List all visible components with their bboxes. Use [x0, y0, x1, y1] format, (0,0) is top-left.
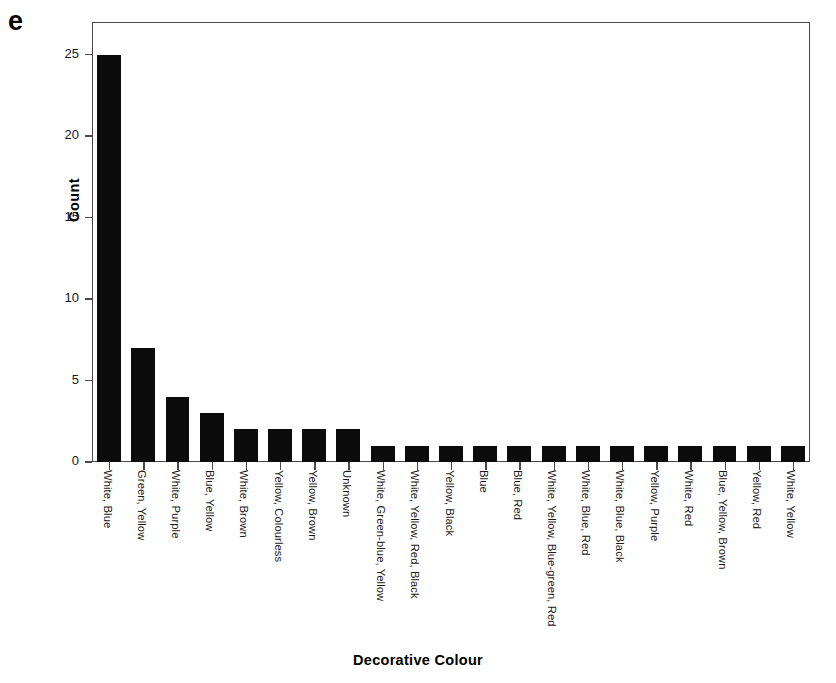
x-tick-mark [519, 462, 520, 470]
x-tick-mark [622, 462, 623, 470]
bar [678, 446, 702, 462]
x-tick-mark [314, 462, 315, 470]
x-tick-mark [348, 462, 349, 470]
x-tick-label: Blue, Yellow, Brown [717, 470, 729, 570]
x-tick-mark [656, 462, 657, 470]
x-tick-label: Unknown [341, 470, 353, 517]
y-tick-mark [85, 135, 92, 136]
bar [781, 446, 805, 462]
x-tick-label: Yellow, Colourless [273, 470, 285, 562]
bars-layer [92, 22, 810, 462]
y-tick-mark [85, 380, 92, 381]
x-tick-mark [485, 462, 486, 470]
x-tick-mark [451, 462, 452, 470]
x-axis-labels: White, BlueGreen, YellowWhite, PurpleBlu… [92, 470, 810, 640]
x-tick-mark [554, 462, 555, 470]
bar [371, 446, 395, 462]
y-tick-mark [85, 54, 92, 55]
x-tick-label: Blue, Red [512, 470, 524, 520]
x-tick-mark [759, 462, 760, 470]
x-tick-mark [280, 462, 281, 470]
y-tick-mark [85, 461, 92, 462]
bar [405, 446, 429, 462]
bar [268, 429, 292, 462]
bar [542, 446, 566, 462]
x-tick-label: White, Red [683, 470, 695, 526]
panel-label: e [8, 8, 23, 35]
bar [576, 446, 600, 462]
y-tick-label: 0 [72, 453, 79, 468]
bar [507, 446, 531, 462]
bar [644, 446, 668, 462]
x-tick-mark [383, 462, 384, 470]
x-tick-mark [690, 462, 691, 470]
x-tick-label: White, Brown [238, 470, 250, 538]
x-tick-mark [143, 462, 144, 470]
x-tick-mark [725, 462, 726, 470]
y-tick-label: 5 [72, 372, 79, 387]
y-tick-mark [85, 298, 92, 299]
y-tick-label: 15 [65, 209, 79, 224]
y-tick-mark [85, 217, 92, 218]
bar [97, 55, 121, 462]
x-tick-label: White, Blue [102, 470, 114, 528]
x-tick-label: Yellow, Purple [649, 470, 661, 541]
x-tick-label: White, Purple [170, 470, 182, 538]
bar [336, 429, 360, 462]
x-tick-label: Yellow, Red [751, 470, 763, 529]
bar [131, 348, 155, 462]
x-tick-mark [793, 462, 794, 470]
y-tick-label: 10 [65, 290, 79, 305]
x-tick-mark [246, 462, 247, 470]
bar [610, 446, 634, 462]
x-tick-mark [109, 462, 110, 470]
y-tick-label: 25 [65, 46, 79, 61]
bar [234, 429, 258, 462]
bar [439, 446, 463, 462]
x-tick-label: Green, Yellow [136, 470, 148, 540]
x-tick-label: White, Green-blue, Yellow [375, 470, 387, 601]
x-tick-mark [417, 462, 418, 470]
bar [713, 446, 737, 462]
x-tick-label: Blue [478, 470, 490, 493]
x-tick-label: Blue, Yellow [204, 470, 216, 532]
bar [166, 397, 190, 462]
x-tick-mark [212, 462, 213, 470]
x-tick-mark [588, 462, 589, 470]
bar [302, 429, 326, 462]
y-tick-label: 20 [65, 127, 79, 142]
y-axis-title: Count [66, 140, 82, 260]
x-axis-title: Decorative Colour [0, 652, 836, 668]
x-tick-label: White, Yellow [785, 470, 797, 538]
bar [473, 446, 497, 462]
x-tick-label: White, Blue, Black [614, 470, 626, 563]
x-tick-label: White, Yellow, Red, Black [409, 470, 421, 599]
x-tick-label: Yellow, Black [444, 470, 456, 536]
x-tick-label: White, Yellow, Blue-green, Red [546, 470, 558, 627]
x-tick-label: Yellow, Brown [307, 470, 319, 541]
bar [200, 413, 224, 462]
x-tick-label: White, Blue, Red [580, 470, 592, 556]
x-tick-mark [177, 462, 178, 470]
bar [747, 446, 771, 462]
